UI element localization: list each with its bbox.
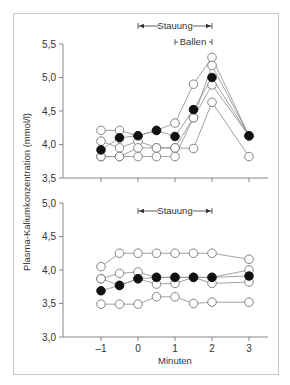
data-point-filled <box>245 272 254 281</box>
data-point-open <box>208 298 217 307</box>
x-axis-title: Minuten <box>158 355 192 366</box>
x-tick-label: 0 <box>135 343 141 354</box>
series-markers <box>97 53 254 161</box>
upper-series <box>97 53 254 161</box>
series-lines <box>101 57 249 156</box>
data-point-filled <box>208 273 217 282</box>
data-point-open <box>97 274 106 283</box>
upper-y-ticks: 3,54,04,55,05,5 <box>42 39 63 184</box>
data-point-open <box>152 144 161 153</box>
data-point-open <box>115 249 124 258</box>
x-tick-label: 1 <box>172 343 178 354</box>
arrow-left-icon <box>139 209 144 213</box>
data-point-open <box>208 53 217 62</box>
upper-stauung-label: Stauung <box>157 20 192 31</box>
data-point-open <box>189 144 198 153</box>
data-point-open <box>171 152 180 161</box>
y-tick-label: 4,0 <box>42 265 56 276</box>
data-point-open <box>152 249 161 258</box>
data-point-open <box>134 249 143 258</box>
data-point-filled <box>97 146 106 155</box>
data-point-open <box>97 300 106 309</box>
data-point-open <box>171 144 180 153</box>
data-point-open <box>245 152 254 161</box>
data-point-open <box>245 255 254 264</box>
data-point-open <box>208 98 217 107</box>
lower-panel: 3,03,54,04,55,0 –10123 Stauung <box>42 198 268 355</box>
data-point-open <box>134 300 143 309</box>
data-point-open <box>115 269 124 278</box>
data-point-filled <box>115 281 124 290</box>
lower-series <box>97 249 254 309</box>
y-tick-label: 3,0 <box>42 332 56 343</box>
data-point-filled <box>134 274 143 283</box>
arrow-right-icon <box>206 209 211 213</box>
data-point-filled <box>115 134 124 143</box>
y-tick-label: 5,0 <box>42 198 56 209</box>
upper-panel: 3,54,04,55,05,5 Stauung Ballen <box>42 20 268 184</box>
y-tick-label: 3,5 <box>42 298 56 309</box>
data-point-filled <box>171 273 180 282</box>
data-point-open <box>208 61 217 70</box>
y-tick-label: 4,5 <box>42 106 56 117</box>
data-point-open <box>115 144 124 153</box>
arrow-left-icon <box>139 24 144 28</box>
data-point-open <box>115 152 124 161</box>
data-point-open <box>208 249 217 258</box>
data-point-filled <box>152 273 161 282</box>
data-point-open <box>189 299 198 308</box>
y-tick-label: 4,0 <box>42 139 56 150</box>
data-point-open <box>189 80 198 89</box>
data-point-filled <box>245 131 254 140</box>
upper-x-ticks <box>101 178 249 182</box>
data-point-open <box>134 152 143 161</box>
lower-y-ticks: 3,03,54,04,55,0 <box>42 198 63 343</box>
x-tick-label: 2 <box>209 343 215 354</box>
data-point-filled <box>134 131 143 140</box>
data-point-open <box>97 126 106 135</box>
lower-stauung-label: Stauung <box>157 205 192 216</box>
data-point-open <box>97 262 106 271</box>
data-point-open <box>189 249 198 258</box>
data-point-filled <box>152 126 161 135</box>
data-point-filled <box>97 286 106 295</box>
chart-canvas: 3,54,04,55,05,5 Stauung Ballen 3,03,54,0… <box>0 0 290 385</box>
y-tick-label: 4,5 <box>42 231 56 242</box>
data-point-open <box>97 137 106 146</box>
data-point-open <box>134 144 143 153</box>
x-tick-label: –1 <box>95 343 107 354</box>
lower-annotations: Stauung <box>138 205 212 216</box>
y-tick-label: 3,5 <box>42 173 56 184</box>
y-tick-label: 5,5 <box>42 39 56 50</box>
data-point-open <box>245 298 254 307</box>
data-point-open <box>115 300 124 309</box>
upper-annotations: Stauung Ballen <box>138 20 212 47</box>
data-point-filled <box>171 132 180 141</box>
y-axis-title: Plasma-Kaliumkonzentration (mmol/l) <box>21 113 32 271</box>
data-point-open <box>152 152 161 161</box>
data-point-filled <box>208 73 217 82</box>
series-markers <box>97 249 254 309</box>
y-tick-label: 5,0 <box>42 72 56 83</box>
data-point-open <box>189 113 198 122</box>
data-point-filled <box>189 273 198 282</box>
data-point-open <box>171 249 180 258</box>
upper-ballen-label: Ballen <box>180 36 206 47</box>
data-point-filled <box>189 105 198 114</box>
data-point-open <box>171 119 180 128</box>
x-tick-label: 3 <box>246 343 252 354</box>
data-point-open <box>171 293 180 302</box>
lower-x-ticks: –10123 <box>95 337 252 354</box>
data-point-open <box>152 293 161 302</box>
arrow-right-icon <box>206 24 211 28</box>
